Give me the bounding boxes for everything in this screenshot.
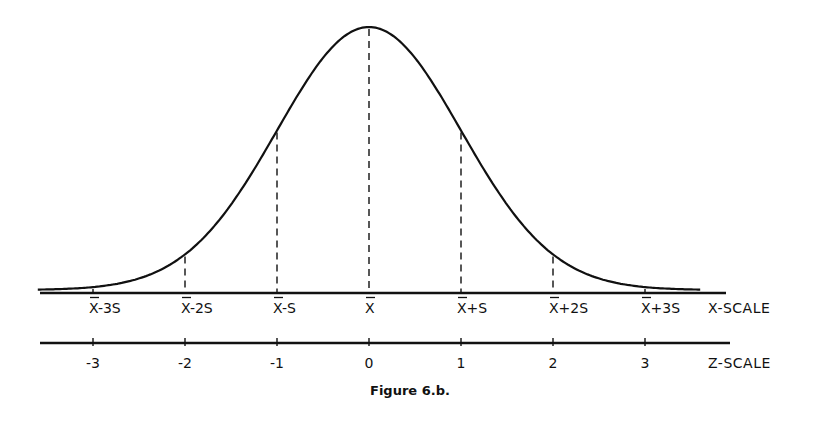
x-scale-label: X-SCALE — [708, 300, 770, 316]
z-scale-tick-label: 1 — [457, 355, 466, 371]
z-scale-tick-label: 2 — [549, 355, 558, 371]
x-scale-tick-label: X-2S — [181, 300, 213, 316]
z-scale-tick-label: -1 — [270, 355, 284, 371]
x-scale-tick-label: X+3S — [641, 300, 680, 316]
z-scale-tick-labels: -3-2-10123 — [86, 355, 649, 371]
x-scale-tick-label: X-3S — [89, 300, 121, 316]
x-scale-tick-label: X+2S — [549, 300, 588, 316]
x-scale-tick-label: X+S — [457, 300, 487, 316]
z-scale-tick-label: -3 — [86, 355, 100, 371]
z-scale-tick-label: 3 — [641, 355, 650, 371]
x-scale-tick-label: X — [365, 300, 375, 316]
x-scale-tick-label: X-S — [273, 300, 296, 316]
figure-caption: Figure 6.b. — [370, 383, 450, 398]
z-scale-label: Z-SCALE — [708, 355, 771, 371]
z-scale-tick-label: 0 — [365, 355, 374, 371]
normal-distribution-figure: X-3SX-2SX-SXX+SX+2SX+3S X-SCALE -3-2-101… — [0, 0, 816, 428]
z-scale-tick-label: -2 — [178, 355, 192, 371]
x-scale-tick-labels: X-3SX-2SX-SXX+SX+2SX+3S — [89, 298, 680, 317]
dashed-sd-lines — [93, 29, 645, 293]
